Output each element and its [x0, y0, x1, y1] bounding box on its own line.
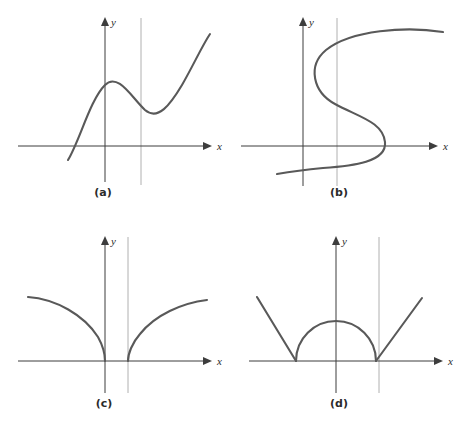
vertical-line-test-figure: x y (a) x y (b) x y (c	[0, 0, 461, 429]
panel-d: x y (d)	[231, 215, 461, 429]
curve-c-left-branch	[28, 297, 105, 361]
x-axis-arrowhead-d	[434, 357, 443, 365]
x-axis-label-c: x	[216, 355, 222, 367]
panel-label-d: (d)	[231, 397, 461, 410]
x-axis-arrowhead-a	[203, 142, 212, 150]
panel-label-b: (b)	[231, 186, 461, 199]
y-axis-arrowhead-a	[101, 17, 109, 26]
panel-b: x y (b)	[231, 0, 461, 214]
panel-label-c: (c)	[0, 397, 230, 410]
y-axis-label-b: y	[308, 16, 314, 28]
y-axis-label-a: y	[110, 16, 116, 28]
x-axis-label-b: x	[442, 140, 448, 152]
panel-c: x y (c)	[0, 215, 230, 429]
panel-label-a: (a)	[0, 186, 230, 199]
y-axis-arrowhead-c	[101, 236, 109, 245]
y-axis-label-d: y	[341, 235, 347, 247]
panel-a-plot: x y	[0, 0, 230, 214]
x-axis-label-a: x	[216, 140, 222, 152]
curve-d-left-ray	[257, 297, 296, 361]
panel-b-plot: x y	[231, 0, 461, 214]
curve-c-right-branch	[128, 300, 207, 361]
y-axis-arrowhead-d	[332, 236, 340, 245]
x-axis-arrowhead-c	[203, 357, 212, 365]
curve-b	[277, 29, 443, 174]
curve-d-right-ray	[376, 298, 422, 361]
y-axis-label-c: y	[110, 235, 116, 247]
x-axis-arrowhead-b	[429, 142, 438, 150]
curve-a	[68, 34, 210, 160]
panel-a: x y (a)	[0, 0, 230, 214]
y-axis-arrowhead-b	[299, 17, 307, 26]
x-axis-label-d: x	[447, 355, 453, 367]
